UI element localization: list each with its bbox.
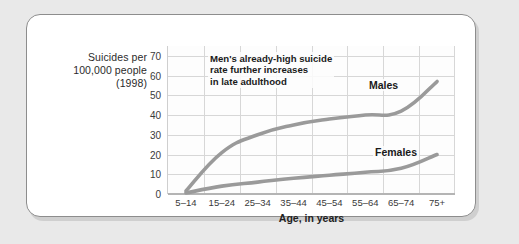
- y-axis-tick-20: 20: [137, 149, 161, 160]
- y-axis-tick-60: 60: [137, 70, 161, 81]
- y-axis-title: Suicides per 100,000 people (1998): [39, 51, 147, 91]
- series-line-females: [186, 155, 437, 193]
- plot-area: Men's already-high suicide rate further …: [168, 46, 455, 194]
- y-axis-tick-50: 50: [137, 90, 161, 101]
- x-axis-tick-8: 75+: [429, 197, 445, 208]
- annotation-text: Men's already-high suicide rate further …: [208, 52, 334, 88]
- series-line-males: [186, 82, 437, 192]
- y-axis-title-line-2: 100,000 people: [39, 64, 147, 77]
- x-axis-tick-2: 15–24: [209, 197, 235, 208]
- x-axis-title: Age, in years: [168, 212, 455, 224]
- y-axis-tick-10: 10: [137, 169, 161, 180]
- y-axis-tick-40: 40: [137, 110, 161, 121]
- x-axis-tick-labels: 5–1415–2425–3435–4445–5455–6465–7475+: [168, 197, 455, 211]
- x-axis-tick-4: 35–44: [280, 197, 306, 208]
- y-axis-title-line-3: (1998): [39, 77, 147, 90]
- x-axis-tick-3: 25–34: [244, 197, 270, 208]
- chart-card: Suicides per 100,000 people (1998) 01020…: [26, 14, 476, 217]
- y-axis-tick-70: 70: [137, 50, 161, 61]
- x-axis-tick-7: 65–74: [388, 197, 414, 208]
- y-axis-tick-30: 30: [137, 129, 161, 140]
- x-axis-tick-6: 55–64: [352, 197, 378, 208]
- series-label-females: Females: [373, 146, 419, 158]
- x-axis-tick-5: 45–54: [316, 197, 342, 208]
- x-axis-tick-1: 5–14: [175, 197, 196, 208]
- y-axis-title-line-1: Suicides per: [39, 51, 147, 64]
- y-axis-tick-0: 0: [137, 189, 161, 200]
- series-label-males: Males: [367, 79, 400, 91]
- y-axis-tick-labels: 010203040506070: [137, 46, 165, 194]
